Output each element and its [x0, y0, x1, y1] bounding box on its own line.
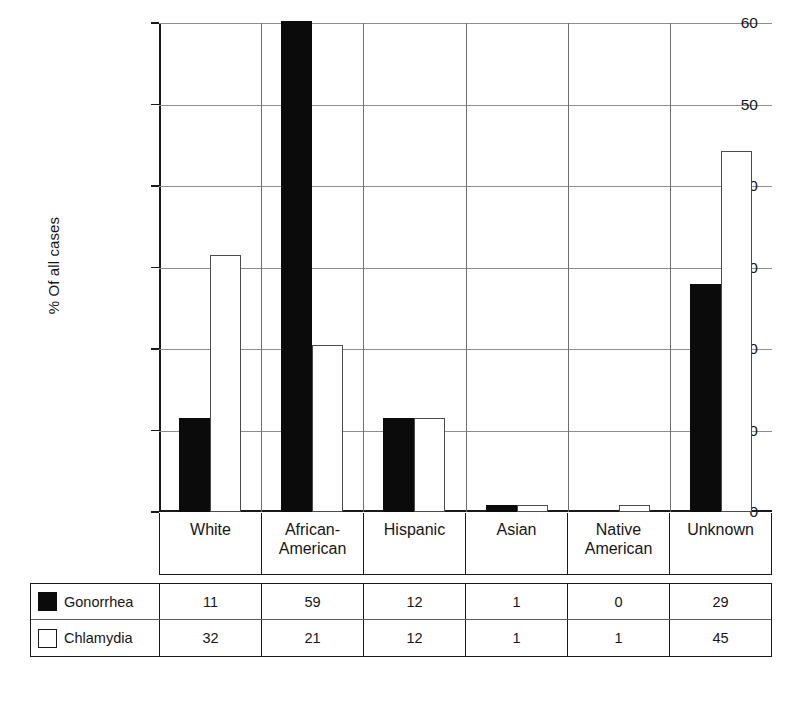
legend-cell-chlamydia: Chlamydia — [31, 620, 160, 656]
table-cell: 11 — [160, 584, 262, 619]
category-label-asian: Asian — [466, 513, 568, 574]
plot-area: 0102030405060 — [159, 23, 772, 512]
bar-chlamydia-white — [210, 255, 241, 512]
y-tick-mark-10 — [151, 430, 159, 432]
table-cell: 59 — [262, 584, 364, 619]
y-tick-mark-30 — [151, 267, 159, 269]
category-label-line: Native — [585, 520, 653, 539]
category-separator — [670, 23, 671, 512]
table-cell: 12 — [364, 584, 466, 619]
y-tick-mark-50 — [151, 104, 159, 106]
category-separator — [466, 23, 467, 512]
table-cell: 45 — [670, 620, 771, 656]
table-row: Gonorrhea1159121029 — [31, 584, 771, 620]
table-cell: 21 — [262, 620, 364, 656]
category-label-line: Hispanic — [384, 520, 445, 539]
table-cell: 1 — [466, 620, 568, 656]
filled-square-icon — [38, 592, 57, 611]
bar-chart-figure: % Of all cases 0102030405060 WhiteAfrica… — [0, 0, 805, 704]
bar-group — [466, 23, 568, 512]
category-separator — [363, 23, 364, 512]
y-tick-mark-20 — [151, 348, 159, 350]
category-label-line: American — [279, 539, 347, 558]
category-separator — [568, 23, 569, 512]
bar-gonorrhea-asian — [486, 505, 517, 512]
bar-group — [363, 23, 465, 512]
outlined-square-icon — [38, 629, 57, 648]
series-name: Chlamydia — [64, 630, 133, 646]
table-cell: 32 — [160, 620, 262, 656]
category-label-african-american: African-American — [262, 513, 364, 574]
bar-gonorrhea-hispanic — [383, 418, 414, 512]
bar-chlamydia-hispanic — [414, 418, 445, 512]
bar-gonorrhea-white — [179, 418, 210, 512]
table-row: Chlamydia3221121145 — [31, 620, 771, 656]
series-name: Gonorrhea — [64, 594, 133, 610]
category-label-line: American — [585, 539, 653, 558]
bar-chlamydia-unknown — [721, 151, 752, 512]
category-label-line: Unknown — [687, 520, 754, 539]
bar-chlamydia-african-american — [312, 345, 343, 512]
table-cell: 1 — [568, 620, 670, 656]
table-cell: 1 — [466, 584, 568, 619]
category-label-line: African- — [279, 520, 347, 539]
bar-gonorrhea-unknown — [690, 284, 721, 512]
y-tick-mark-0 — [151, 511, 159, 513]
category-label-native-american: NativeAmerican — [568, 513, 670, 574]
category-label-hispanic: Hispanic — [364, 513, 466, 574]
category-header-row: WhiteAfrican-AmericanHispanicAsianNative… — [159, 513, 772, 575]
table-cell: 0 — [568, 584, 670, 619]
category-label-line: White — [190, 520, 231, 539]
category-label-white: White — [160, 513, 262, 574]
bar-gonorrhea-african-american — [281, 21, 312, 512]
y-axis-title: % Of all cases — [45, 166, 62, 366]
category-label-unknown: Unknown — [670, 513, 771, 574]
bar-group — [261, 23, 363, 512]
category-separator — [261, 23, 262, 512]
bar-chlamydia-native-american — [619, 505, 650, 512]
bar-chlamydia-asian — [517, 505, 548, 512]
category-label-line: Asian — [496, 520, 536, 539]
legend-data-table: Gonorrhea1159121029Chlamydia3221121145 — [30, 583, 772, 657]
y-tick-mark-60 — [151, 22, 159, 24]
table-cell: 29 — [670, 584, 771, 619]
y-tick-mark-40 — [151, 185, 159, 187]
legend-cell-gonorrhea: Gonorrhea — [31, 584, 160, 619]
bar-group — [568, 23, 670, 512]
bar-group — [159, 23, 261, 512]
table-cell: 12 — [364, 620, 466, 656]
bar-group — [670, 23, 772, 512]
